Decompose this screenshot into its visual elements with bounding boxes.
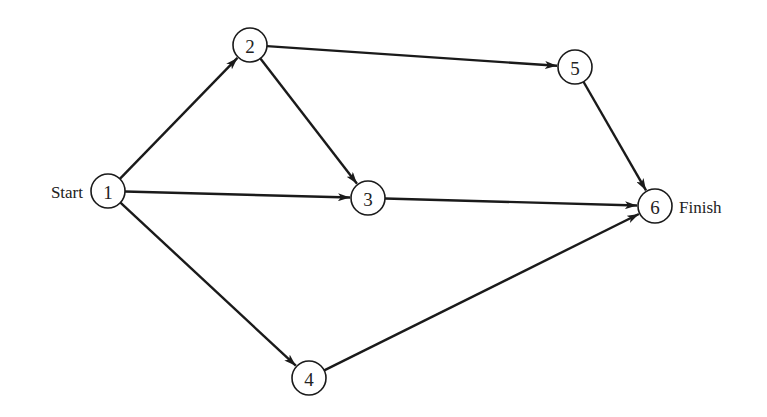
edge-1-2 <box>120 58 238 179</box>
start-label: Start <box>51 183 83 202</box>
edge-4-6 <box>324 214 639 370</box>
edge-5-6 <box>583 82 646 191</box>
node-label: 2 <box>245 36 255 57</box>
edge-1-4 <box>120 203 295 366</box>
node-3: 3 <box>351 181 385 215</box>
edge-2-5 <box>267 46 557 66</box>
node-label: 3 <box>363 189 373 210</box>
node-label: 1 <box>103 182 113 203</box>
node-1: 1Start <box>51 174 125 208</box>
edge-3-6 <box>385 198 637 205</box>
edge-2-3 <box>260 58 357 183</box>
node-6: 6Finish <box>638 189 722 223</box>
edge-1-3 <box>125 191 350 197</box>
node-label: 4 <box>304 369 314 390</box>
node-label: 6 <box>650 197 660 218</box>
node-2: 2 <box>233 28 267 62</box>
edges-layer <box>120 46 646 370</box>
node-5: 5 <box>558 50 592 84</box>
node-label: 5 <box>570 58 580 79</box>
finish-label: Finish <box>679 198 722 217</box>
network-diagram: 1Start23456Finish <box>0 0 767 417</box>
node-4: 4 <box>292 361 326 395</box>
